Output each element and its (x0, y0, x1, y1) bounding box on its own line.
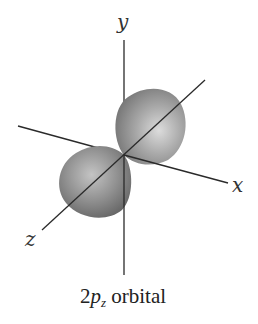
caption-suffix: orbital (106, 284, 166, 308)
caption-letter: p (90, 284, 101, 308)
x-axis-front-segment (124, 155, 228, 183)
orbital-caption: 2pz orbital (0, 284, 246, 311)
x-axis-label: x (232, 173, 243, 197)
y-axis-label: y (116, 10, 129, 34)
caption-prefix: 2 (80, 284, 91, 308)
orbital-figure: y x z (0, 0, 258, 324)
z-axis-back-segment (180, 80, 205, 103)
z-axis-label: z (24, 227, 36, 251)
orbital-diagram: y x z 2pz orbital (0, 0, 258, 324)
